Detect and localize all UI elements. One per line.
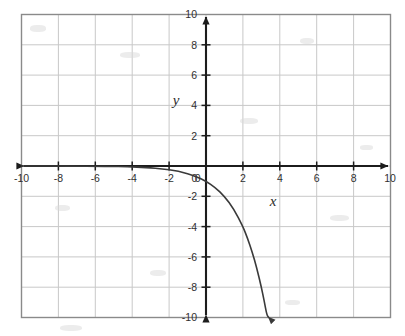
paper-speck [300, 38, 314, 44]
canvas-background [0, 0, 405, 336]
y-tick-label: 8 [191, 39, 197, 51]
x-tick-label: 10 [384, 172, 396, 184]
y-axis-label: y [171, 92, 180, 108]
x-tick-label: -2 [164, 172, 173, 184]
paper-speck [150, 270, 166, 276]
y-tick-label: -10 [182, 311, 197, 323]
y-tick-label: 4 [191, 99, 197, 111]
paper-speck [330, 215, 349, 221]
paper-speck [360, 145, 373, 150]
x-tick-label: 4 [277, 172, 283, 184]
x-tick-label: 8 [351, 172, 357, 184]
paper-speck [30, 25, 46, 32]
x-tick-label: 2 [240, 172, 246, 184]
graph-figure: -10 -8 -6 -4 -2 0 2 4 6 8 10 10 8 6 4 2 … [0, 0, 405, 336]
y-tick-label: -2 [188, 190, 197, 202]
x-tick-label: -6 [91, 172, 100, 184]
paper-speck [120, 52, 140, 58]
y-tick-label: -6 [188, 251, 197, 263]
y-tick-label: 2 [191, 130, 197, 142]
x-tick-label: -8 [54, 172, 63, 184]
paper-speck [240, 118, 258, 124]
paper-speck [285, 300, 300, 305]
x-axis-label: x [269, 193, 277, 209]
coordinate-plane-svg: -10 -8 -6 -4 -2 0 2 4 6 8 10 10 8 6 4 2 … [0, 0, 405, 336]
paper-speck [55, 205, 70, 211]
paper-speck [60, 325, 82, 331]
y-tick-label: -8 [188, 281, 197, 293]
y-tick-label: 6 [191, 69, 197, 81]
x-tick-label: -4 [128, 172, 137, 184]
y-tick-label: -4 [188, 221, 197, 233]
x-tick-label: -10 [14, 172, 29, 184]
x-tick-label: 6 [314, 172, 320, 184]
y-tick-label: 10 [185, 8, 197, 20]
